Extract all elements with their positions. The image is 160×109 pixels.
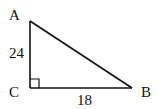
side-label-ac: 24	[9, 45, 25, 61]
vertex-label-c: C	[9, 84, 19, 100]
triangle-diagram: A C B 24 18	[0, 0, 160, 109]
side-label-cb: 18	[77, 92, 92, 108]
right-angle-marker	[30, 79, 39, 88]
vertex-label-b: B	[141, 84, 151, 100]
side-ab	[30, 21, 132, 88]
vertex-label-a: A	[9, 7, 20, 23]
